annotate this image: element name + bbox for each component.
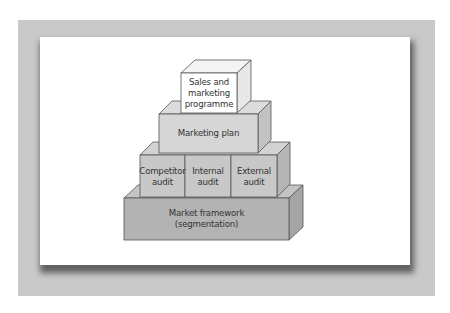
plan-block-label: Marketing plan — [159, 128, 258, 139]
competitor-audit-label: Competitor audit — [139, 166, 186, 188]
competitor-label-line2: audit — [139, 177, 186, 188]
competitor-label-line1: Competitor — [139, 166, 186, 177]
internal-label-line2: audit — [185, 177, 231, 188]
external-audit-label: External audit — [231, 166, 277, 188]
top-block-label: Sales and marketing programme — [181, 77, 237, 110]
internal-label-line1: Internal — [185, 166, 231, 177]
top-label-line2: marketing — [181, 88, 237, 99]
external-label-line2: audit — [231, 177, 277, 188]
base-label-line2: (segmentation) — [124, 219, 289, 230]
pyramid-diagram — [0, 0, 450, 313]
external-label-line1: External — [231, 166, 277, 177]
base-label-line1: Market framework — [124, 208, 289, 219]
plan-label: Marketing plan — [159, 128, 258, 139]
top-label-line3: programme — [181, 99, 237, 110]
base-block-label: Market framework (segmentation) — [124, 208, 289, 230]
internal-audit-label: Internal audit — [185, 166, 231, 188]
top-label-line1: Sales and — [181, 77, 237, 88]
